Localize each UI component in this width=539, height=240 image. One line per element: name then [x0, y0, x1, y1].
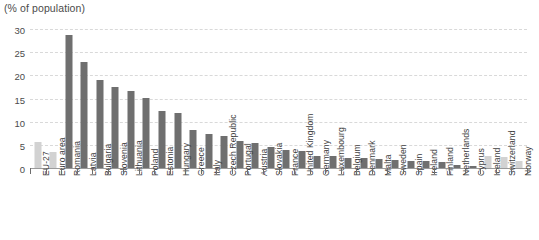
x-axis-tick [46, 168, 47, 174]
x-axis-tick [216, 168, 217, 174]
y-axis-tick-label: 25 [14, 48, 25, 59]
x-axis-tick [496, 168, 497, 174]
x-axis-tick [294, 168, 295, 174]
x-axis-tick [185, 168, 186, 174]
x-axis-tick [232, 168, 233, 174]
x-axis-tick [154, 168, 155, 174]
y-axis-tick-label: 30 [14, 25, 25, 36]
bar[interactable] [143, 98, 150, 168]
x-axis-tick [30, 168, 31, 174]
x-axis-tick [310, 168, 311, 174]
x-axis-tick [108, 168, 109, 174]
bar-chart: (% of population) 051015202530 EU-27Euro… [0, 0, 539, 240]
bar[interactable] [376, 159, 383, 168]
bar-slot [418, 29, 434, 168]
x-axis-tick [465, 168, 466, 174]
x-axis-tick [139, 168, 140, 174]
y-axis-tick-label: 0 [20, 164, 25, 175]
x-axis-tick [511, 168, 512, 174]
x-axis-tick [123, 168, 124, 174]
chart-axis-title: (% of population) [4, 2, 85, 14]
bar[interactable] [174, 113, 181, 168]
x-axis-tick [434, 168, 435, 174]
x-axis-tick [449, 168, 450, 174]
x-axis-tick [356, 168, 357, 174]
bar[interactable] [407, 161, 414, 168]
x-axis-tick [92, 168, 93, 174]
x-axis-tick [372, 168, 373, 174]
bar-slot [30, 29, 46, 168]
x-axis-tick [325, 168, 326, 174]
x-axis-tick [480, 168, 481, 174]
x-axis-tick [527, 168, 528, 174]
x-axis-tick [341, 168, 342, 174]
x-axis-tick [77, 168, 78, 174]
x-axis-tick [61, 168, 62, 174]
y-axis-tick-label: 5 [20, 140, 25, 151]
x-axis-tick [170, 168, 171, 174]
category-axis: EU-27Euro areaRomaniaLatviaBulgariaSlove… [30, 168, 527, 240]
x-axis-tick [247, 168, 248, 174]
y-axis-tick-label: 20 [14, 71, 25, 82]
y-axis-tick-label: 15 [14, 94, 25, 105]
x-axis-tick [387, 168, 388, 174]
x-axis-category-label: United Kingdom [305, 113, 315, 176]
x-axis-tick [263, 168, 264, 174]
x-axis-tick [279, 168, 280, 174]
x-axis-category-label: Czech Republic [228, 114, 238, 176]
x-axis-tick [201, 168, 202, 174]
y-axis-tick-label: 10 [14, 117, 25, 128]
x-axis-tick [418, 168, 419, 174]
x-axis-tick [403, 168, 404, 174]
